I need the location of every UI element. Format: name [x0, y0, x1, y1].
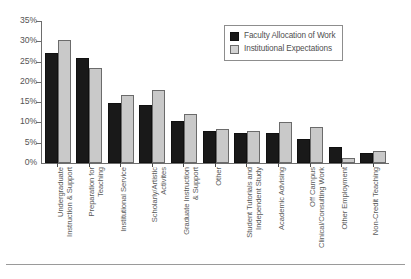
bar-series-1	[184, 114, 197, 163]
y-axis-tick-label: 5%	[3, 138, 37, 147]
y-axis-tick-label: 35%	[3, 16, 37, 25]
x-axis-category-labels: UndergraduateInstruction & SupportPrepar…	[42, 167, 389, 263]
bar-group	[105, 21, 137, 163]
x-axis-label-cell: UndergraduateInstruction & Support	[42, 167, 74, 263]
bar-group	[42, 21, 74, 163]
bar-series-1	[279, 122, 292, 163]
x-axis-category-label-line1: Other	[214, 167, 223, 186]
bar-group	[168, 21, 200, 163]
x-axis-category-label: Other	[215, 167, 224, 262]
y-axis-tick-mark	[36, 102, 41, 103]
x-axis-category-label-line1: Non-Credit Teaching	[371, 167, 380, 235]
chart-figure: 35%30%25%20%15%10%5%0% UndergraduateInst…	[0, 0, 411, 279]
legend-swatch-icon-series-1	[230, 45, 239, 54]
y-axis-tick-label: 0%	[3, 158, 37, 167]
bar-series-0	[297, 139, 310, 163]
bar-series-1	[216, 129, 229, 163]
x-axis-category-label-line1: Off Campus	[308, 167, 317, 207]
x-axis-label-cell: Other Employment	[326, 167, 358, 263]
bar-series-1	[373, 151, 386, 163]
bar-series-1	[89, 68, 102, 163]
x-axis-category-label: Graduate Instruction& Support	[183, 167, 200, 262]
x-axis-category-label: Non-Credit Teaching	[372, 167, 381, 262]
legend-label-series-0: Faculty Allocation of Work	[244, 32, 335, 40]
y-axis-tick-labels: 35%30%25%20%15%10%5%0%	[0, 21, 37, 163]
figure-bottom-rule	[6, 264, 405, 265]
x-axis-label-cell: Other	[200, 167, 232, 263]
x-axis-category-label-line1: Student Tutorials and	[245, 167, 254, 238]
bar-group	[74, 21, 106, 163]
x-axis-category-label-line1: Institutional Service	[119, 167, 128, 232]
bar-series-0	[329, 147, 342, 163]
y-axis-tick-label: 20%	[3, 77, 37, 86]
x-axis-category-label: Off CampusClinical/Consulting Work	[309, 167, 326, 262]
legend-item-series-0: Faculty Allocation of Work	[230, 30, 335, 43]
x-axis-category-label-line1: Other Employment	[340, 167, 349, 230]
y-axis-tick-label: 30%	[3, 36, 37, 45]
bar-series-1	[310, 127, 323, 164]
x-axis-label-cell: Scholarly/ArtisticActivites	[137, 167, 169, 263]
bar-series-0	[360, 153, 373, 163]
x-axis-label-cell: Non-Credit Teaching	[357, 167, 389, 263]
legend-label-series-1: Institutional Expectations	[244, 45, 332, 53]
bar-series-0	[45, 53, 58, 163]
x-axis-category-label: Academic Advising	[278, 167, 287, 262]
bar-group	[357, 21, 389, 163]
bar-series-1	[58, 40, 71, 163]
x-axis-label-cell: Preparation forTeaching	[74, 167, 106, 263]
x-axis-label-cell: Student Tutorials andIndependent Study	[231, 167, 263, 263]
y-axis-tick-mark	[36, 82, 41, 83]
bar-series-1	[152, 90, 165, 163]
bar-series-0	[76, 58, 89, 163]
bar-series-1	[342, 158, 355, 163]
x-axis-label-cell: Institutional Service	[105, 167, 137, 263]
y-axis-tick-label: 10%	[3, 117, 37, 126]
y-axis-tick-mark	[36, 21, 41, 22]
bar-series-0	[203, 131, 216, 163]
bar-series-0	[139, 105, 152, 163]
bar-series-0	[171, 121, 184, 163]
bar-series-0	[266, 133, 279, 163]
x-axis-category-label: UndergraduateInstruction & Support	[57, 167, 74, 262]
y-axis-tick-mark	[36, 143, 41, 144]
y-axis-tick-label: 25%	[3, 57, 37, 66]
x-axis-category-label-line1: Graduate Instruction	[182, 167, 191, 235]
x-axis-category-label: Preparation forTeaching	[88, 167, 105, 262]
x-axis-label-cell: Graduate Instruction& Support	[168, 167, 200, 263]
x-axis-category-label-line1: Academic Advising	[277, 167, 286, 230]
bar-series-1	[121, 95, 134, 163]
legend-swatch-icon-series-0	[230, 32, 239, 41]
bar-series-0	[108, 103, 121, 163]
bar-series-0	[234, 133, 247, 163]
legend-item-series-1: Institutional Expectations	[230, 43, 335, 56]
x-axis-category-label: Other Employment	[341, 167, 350, 262]
x-axis-category-label: Institutional Service	[120, 167, 129, 262]
x-axis-category-label: Scholarly/ArtisticActivites	[151, 167, 168, 262]
y-axis-tick-label: 15%	[3, 97, 37, 106]
y-axis-tick-mark	[36, 62, 41, 63]
x-axis-category-label-line1: Preparation for	[87, 167, 96, 216]
bar-group	[137, 21, 169, 163]
y-axis-tick-mark	[36, 41, 41, 42]
bar-series-1	[247, 131, 260, 163]
chart-legend: Faculty Allocation of Work Institutional…	[224, 25, 343, 61]
y-axis-tick-mark	[36, 122, 41, 123]
x-axis-label-cell: Off CampusClinical/Consulting Work	[294, 167, 326, 263]
x-axis-label-cell: Academic Advising	[263, 167, 295, 263]
x-axis-category-label-line1: Undergraduate	[56, 167, 65, 217]
x-axis-category-label: Student Tutorials andIndependent Study	[246, 167, 263, 262]
